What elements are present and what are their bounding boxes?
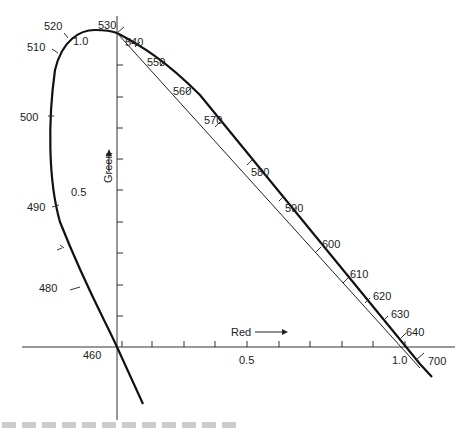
label-510: 510 bbox=[27, 41, 45, 53]
label-530: 530 bbox=[98, 19, 116, 31]
y-axis-label: Green bbox=[102, 152, 114, 183]
label-610: 610 bbox=[350, 268, 368, 280]
label-480: 480 bbox=[39, 282, 57, 294]
x-tick-1-0: 1.0 bbox=[392, 354, 407, 366]
spectral-locus bbox=[50, 30, 432, 404]
y-ticks bbox=[117, 65, 123, 316]
x-tick-0-5: 0.5 bbox=[239, 354, 254, 366]
label-600: 600 bbox=[322, 238, 340, 250]
label-490: 490 bbox=[27, 201, 45, 213]
label-640: 640 bbox=[406, 326, 424, 338]
label-540: 540 bbox=[125, 36, 143, 48]
label-590: 590 bbox=[285, 202, 303, 214]
label-460: 460 bbox=[83, 349, 101, 361]
figure-caption-cropped bbox=[2, 422, 242, 428]
label-630: 630 bbox=[391, 308, 409, 320]
red-arrowhead-icon bbox=[282, 329, 288, 335]
label-580: 580 bbox=[251, 166, 269, 178]
unit-line bbox=[117, 33, 420, 368]
label-700: 700 bbox=[428, 355, 446, 367]
x-axis-label: Red bbox=[231, 326, 251, 338]
y-tick-0-5: 0.5 bbox=[71, 186, 86, 198]
y-tick-1-0: 1.0 bbox=[73, 35, 88, 47]
x-ticks bbox=[122, 341, 405, 347]
label-620: 620 bbox=[373, 290, 391, 302]
chromaticity-diagram: 460 480 490 500 510 520 530 540 550 560 … bbox=[0, 0, 475, 434]
label-520: 520 bbox=[44, 20, 62, 32]
label-500: 500 bbox=[20, 111, 38, 123]
label-550: 550 bbox=[147, 56, 165, 68]
label-560: 560 bbox=[173, 85, 191, 97]
label-570: 570 bbox=[204, 114, 222, 126]
